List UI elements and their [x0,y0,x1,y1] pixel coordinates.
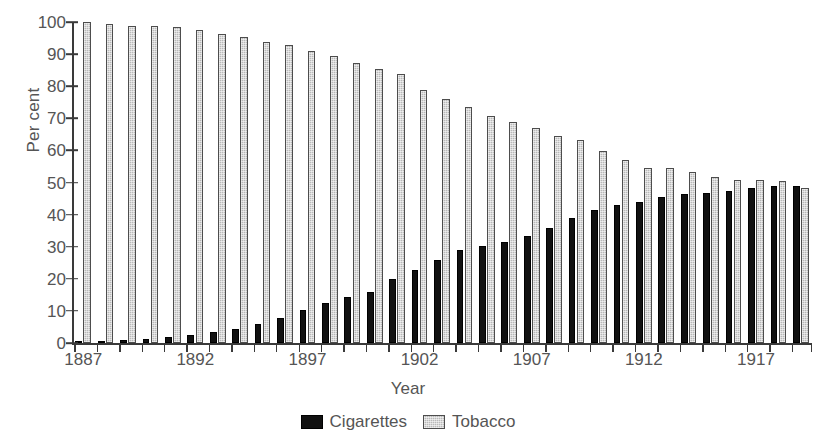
x-tick-mark-1905 [478,344,479,352]
y-tick-label-10: 10 [24,302,66,319]
bar-tobacco-1909 [577,140,585,344]
bar-tobacco-1896 [285,45,293,344]
y-tick-mark-60 [66,150,78,152]
y-tick-label-50: 50 [24,174,66,191]
legend-label: Cigarettes [330,412,407,432]
bar-cigarettes-1903 [434,260,441,343]
bar-tobacco-1919 [801,188,809,344]
y-tick-mark-100 [66,21,78,23]
y-tick-mark-10 [66,310,78,312]
bar-group-1919 [793,22,809,343]
bar-group-1902 [412,22,428,343]
bar-cigarettes-1888 [98,341,105,343]
x-tick-mark-1919 [792,344,793,352]
bars-container [72,22,812,343]
y-tick-label-20: 20 [24,270,66,287]
bar-group-1888 [98,22,114,343]
bar-cigarettes-1918 [771,186,778,343]
bar-cigarettes-1909 [569,218,576,343]
x-tick-label-1887: 1887 [64,350,102,370]
bar-group-1894 [232,22,248,343]
y-tick-mark-20 [66,278,78,280]
y-tick-mark-40 [66,214,78,216]
x-tick-mark-1901 [388,344,389,352]
bar-group-1905 [479,22,495,343]
y-tick-label-30: 30 [24,238,66,255]
bar-group-1918 [771,22,787,343]
bar-tobacco-1908 [554,136,562,343]
bar-group-1915 [703,22,719,343]
bar-group-1913 [658,22,674,343]
bar-cigarettes-1898 [322,303,329,343]
bar-tobacco-1911 [622,160,630,343]
bar-cigarettes-1900 [367,292,374,343]
y-tick-label-70: 70 [24,110,66,127]
gray-square-swatch [423,415,445,429]
bar-group-1890 [143,22,159,343]
bar-tobacco-1887 [83,22,91,343]
bar-tobacco-1913 [666,168,674,343]
y-tick-mark-70 [66,118,78,120]
bar-group-1901 [389,22,405,343]
bar-tobacco-1901 [397,74,405,344]
bar-group-1895 [255,22,271,343]
y-tick-label-100: 100 [24,14,66,31]
x-tick-label-1897: 1897 [289,350,327,370]
bar-tobacco-1899 [353,63,361,344]
bar-group-1909 [569,22,585,343]
bar-tobacco-1918 [779,181,787,343]
plot-area [72,22,812,345]
bar-tobacco-1912 [644,168,652,343]
y-tick-mark-50 [66,182,78,184]
bar-group-1908 [546,22,562,343]
bar-tobacco-1904 [465,107,473,343]
bar-cigarettes-1899 [344,297,351,344]
bar-tobacco-1903 [442,99,450,343]
x-tick-mark-1896 [276,344,277,352]
bar-cigarettes-1910 [591,210,598,343]
x-tick-mark-1895 [254,344,255,352]
bar-tobacco-1910 [599,151,607,344]
bar-chart: Per cent 0102030405060708090100 18871892… [0,0,816,443]
bar-tobacco-1906 [509,122,517,343]
bar-cigarettes-1892 [187,335,194,343]
bar-cigarettes-1902 [412,270,419,344]
bar-group-1916 [726,22,742,343]
y-tick-mark-80 [66,85,78,87]
x-tick-mark-1904 [455,344,456,352]
bar-tobacco-1915 [711,177,719,344]
bar-group-1899 [344,22,360,343]
bar-cigarettes-1904 [457,250,464,343]
bar-cigarettes-1917 [748,188,755,344]
bar-cigarettes-1891 [165,337,172,343]
bar-group-1910 [591,22,607,343]
x-tick-mark-1906 [500,344,501,352]
bar-cigarettes-1914 [681,194,688,343]
legend-label: Tobacco [452,412,515,432]
bar-group-1893 [210,22,226,343]
y-tick-mark-90 [66,53,78,55]
chart-legend: CigarettesTobacco [0,412,816,432]
x-tick-mark-1909 [568,344,569,352]
bar-cigarettes-1912 [636,202,643,343]
bar-group-1907 [524,22,540,343]
x-tick-mark-1899 [343,344,344,352]
bar-tobacco-1893 [218,34,226,344]
bar-cigarettes-1901 [389,279,396,343]
y-tick-label-60: 60 [24,142,66,159]
bar-group-1911 [614,22,630,343]
bar-cigarettes-1889 [120,340,127,343]
bar-cigarettes-1916 [726,191,733,343]
bar-cigarettes-1911 [614,205,621,343]
x-axis-title: Year [0,379,816,399]
bar-cigarettes-1908 [546,228,553,344]
y-tick-label-40: 40 [24,206,66,223]
bar-cigarettes-1890 [143,339,150,344]
bar-cigarettes-1893 [210,332,217,343]
y-tick-label-0: 0 [24,335,66,352]
bar-tobacco-1888 [106,24,114,343]
bar-cigarettes-1895 [255,324,262,343]
x-tick-label-1907: 1907 [513,350,551,370]
legend-item-tobacco: Tobacco [423,412,515,432]
x-tick-label-1912: 1912 [625,350,663,370]
